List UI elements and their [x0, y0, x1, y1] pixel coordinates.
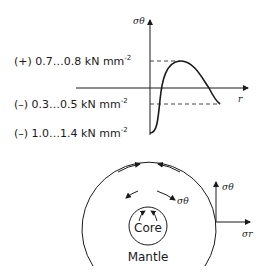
- stress-diagram: σθ r (+) 0.7…0.8 kN mm-2 (–) 0.3…0.5 kN …: [0, 0, 264, 274]
- mid-arrow-left: [126, 191, 138, 198]
- level-label-1: (+) 0.7…0.8 kN mm-2: [14, 54, 131, 68]
- tangential-label: σθ: [177, 196, 189, 206]
- edge-radial-label: σr: [242, 229, 253, 239]
- core-arrow-left: [139, 211, 145, 221]
- cross-section: σθ Core Mantle σθ σr: [82, 162, 253, 266]
- level-label-3: (–) 1.0…1.4 kN mm-2: [14, 126, 128, 140]
- core-label: Core: [134, 221, 162, 235]
- mid-arrow-right: [157, 191, 175, 200]
- x-axis-label: r: [238, 94, 243, 104]
- edge-tangential-label: σθ: [222, 182, 234, 192]
- y-axis-label: σθ: [133, 16, 145, 26]
- graph-axes: σθ r: [76, 16, 248, 135]
- level-label-2: (–) 0.3…0.5 kN mm-2: [14, 97, 128, 111]
- core-arrow-right: [151, 211, 157, 221]
- stress-curve: [150, 61, 220, 133]
- mantle-label: Mantle: [128, 250, 169, 264]
